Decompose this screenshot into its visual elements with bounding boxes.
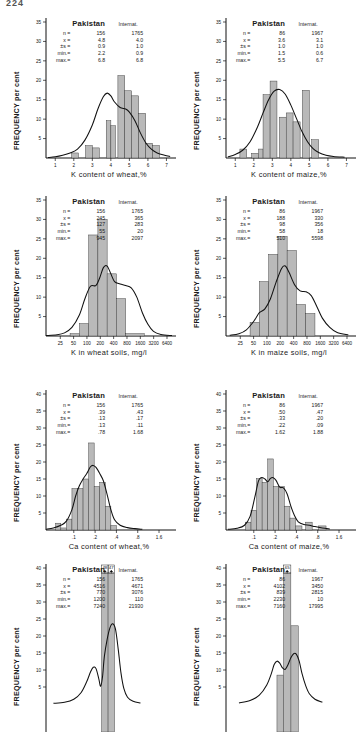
stats-header-pakistan: Pakistan — [72, 19, 105, 30]
stats-row-label: max.= — [56, 603, 72, 610]
stats-row-label: min.= — [56, 228, 72, 235]
stats-row: ±s =1.01.0 — [236, 43, 323, 50]
stats-row-label: n = — [56, 208, 72, 215]
stats-header-internat: Internat. — [105, 565, 143, 576]
y-axis-label: FREQUENCY per cent — [192, 71, 201, 150]
stats-value-pakistan: .78 — [72, 429, 105, 436]
stats-value-pakistan: 156 — [72, 402, 105, 409]
stats-row: x =.39.43 — [56, 409, 143, 416]
x-axis-label: K content of maize,% — [226, 170, 352, 179]
svg-text:40: 40 — [36, 566, 42, 571]
stats-value-pakistan: 86 — [252, 30, 285, 37]
svg-text:200: 200 — [276, 341, 284, 346]
svg-text:50: 50 — [71, 341, 77, 346]
stats-value-pakistan: .39 — [72, 409, 105, 416]
stats-table-ca-wheat-soils: PakistanInternat.n =1561765x =45164671±s… — [56, 565, 143, 610]
histogram-bar — [273, 486, 279, 530]
stats-row: ±s =8392815 — [236, 589, 323, 596]
svg-text:20: 20 — [216, 256, 222, 261]
stats-value-pakistan: .13 — [72, 415, 105, 422]
histogram-bar — [279, 117, 286, 158]
histogram-bar — [79, 324, 88, 336]
svg-text:5: 5 — [38, 136, 41, 141]
stats-row: n =1561765 — [56, 30, 143, 37]
stats-row: max.=9452097 — [56, 235, 143, 242]
stats-row-label: ±s = — [236, 415, 252, 422]
stats-value-pakistan: .13 — [72, 422, 105, 429]
stats-row-label: max.= — [56, 429, 72, 436]
histogram-bar — [111, 126, 116, 158]
stats-value-internat: 365 — [105, 215, 143, 222]
stats-header-internat: Internat. — [285, 565, 323, 576]
stats-row-label: max.= — [236, 603, 252, 610]
stats-value-pakistan: 1200 — [72, 596, 105, 603]
histogram-bar — [291, 626, 298, 732]
stats-value-pakistan: 1.0 — [252, 43, 285, 50]
svg-text:15: 15 — [216, 477, 222, 482]
histogram-bar — [262, 482, 268, 530]
histogram-bar — [100, 482, 106, 530]
stats-row: max.=716017995 — [236, 603, 323, 610]
svg-text:6: 6 — [147, 163, 150, 168]
stats-table-k-maize-soils: PakistanInternat.n =861967x =188330±s =9… — [236, 197, 323, 242]
histogram-bar — [279, 486, 285, 530]
stats-row: max.=6.86.8 — [56, 57, 143, 64]
stats-row-label: n = — [56, 402, 72, 409]
stats-row: ±s =.33.20 — [236, 415, 323, 422]
svg-text:400: 400 — [290, 341, 298, 346]
stats-row: n =1561765 — [56, 208, 143, 215]
stats-value-internat: 283 — [105, 221, 143, 228]
stats-row: min.=.13.11 — [56, 422, 143, 429]
svg-text:30: 30 — [36, 426, 42, 431]
stats-value-pakistan: 5.5 — [252, 57, 285, 64]
stats-row: min.=5520 — [56, 228, 143, 235]
svg-text:1: 1 — [54, 163, 57, 168]
stats-value-internat: 2097 — [105, 235, 143, 242]
histogram-bar — [290, 518, 296, 530]
stats-value-pakistan: 86 — [252, 208, 285, 215]
svg-text:35: 35 — [36, 409, 42, 414]
chart-panel-ca-wheat: 510152025303540.1.2.4.81.6FREQUENCY per … — [0, 382, 179, 558]
svg-text:25: 25 — [216, 59, 222, 64]
svg-text:5: 5 — [218, 136, 221, 141]
histogram-bar — [106, 121, 111, 158]
histogram-bar — [269, 254, 278, 336]
histogram-bar — [83, 479, 89, 530]
histogram-bar — [284, 506, 290, 530]
svg-text:.4: .4 — [114, 535, 118, 540]
svg-text:35: 35 — [216, 20, 222, 25]
histogram-bar — [268, 459, 274, 530]
stats-row: ±s =127283 — [56, 221, 143, 228]
stats-value-pakistan: 188 — [252, 215, 285, 222]
stats-value-internat: 1967 — [285, 576, 323, 583]
stats-value-internat: 1.68 — [105, 429, 143, 436]
svg-text:50: 50 — [251, 341, 257, 346]
histogram-bar — [302, 90, 309, 158]
stats-table-ca-wheat: PakistanInternat.n =1561765x =.39.43±s =… — [56, 391, 143, 436]
stats-row-label: x = — [56, 583, 72, 590]
reference-distribution-curve — [53, 624, 140, 704]
svg-text:35: 35 — [36, 20, 42, 25]
svg-text:5: 5 — [38, 685, 41, 690]
histogram-bar — [125, 91, 132, 158]
stats-value-internat: 1967 — [285, 402, 323, 409]
stats-value-pakistan: 127 — [72, 221, 105, 228]
stats-row-label: x = — [56, 409, 72, 416]
svg-text:15: 15 — [36, 651, 42, 656]
histogram-bar — [258, 149, 263, 158]
stats-row: x =41023450 — [236, 583, 323, 590]
histogram-bar — [70, 334, 79, 336]
stats-row: ±s =98356 — [236, 221, 323, 228]
stats-row-label: n = — [56, 30, 72, 37]
stats-row-label: n = — [56, 576, 72, 583]
stats-value-internat: 6.7 — [285, 57, 323, 64]
svg-text:25: 25 — [216, 617, 222, 622]
stats-value-internat: 20 — [105, 228, 143, 235]
stats-value-internat: 4.0 — [105, 37, 143, 44]
histogram-bar — [287, 251, 296, 336]
svg-text:10: 10 — [216, 668, 222, 673]
stats-value-internat: .43 — [105, 409, 143, 416]
stats-row-label: min.= — [236, 228, 252, 235]
stats-value-internat: 1765 — [105, 402, 143, 409]
stats-value-pakistan: 156 — [72, 208, 105, 215]
